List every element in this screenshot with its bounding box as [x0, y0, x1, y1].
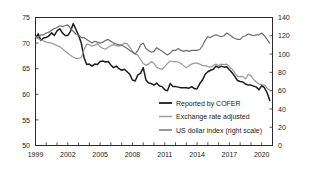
x-axis-tick: 2002: [60, 151, 76, 158]
y-axis-right-tick: 40: [278, 106, 286, 113]
x-axis-tick: 1999: [28, 151, 44, 158]
chart-container: 757065605550 140120100806040200 19992002…: [0, 0, 314, 170]
x-axis-tick: 2014: [189, 151, 205, 158]
y-axis-left-tick: 65: [22, 65, 30, 72]
y-axis-right-tick: 60: [278, 87, 286, 94]
y-axis-left-tick: 60: [22, 91, 30, 98]
x-axis-tick: 2005: [92, 151, 108, 158]
legend-label-2: US dollar index (right scale): [176, 127, 262, 135]
y-axis-left-tick: 75: [22, 14, 30, 21]
x-axis-tick: 2011: [157, 151, 172, 158]
y-axis-left-tick: 70: [22, 40, 30, 47]
y-axis-right-tick: 0: [278, 142, 282, 149]
x-axis-tick: 2017: [222, 151, 238, 158]
y-axis-right-tick: 20: [278, 124, 286, 131]
dual-axis-line-chart: 757065605550 140120100806040200 19992002…: [0, 0, 314, 170]
legend-label-0: Reported by COFER: [176, 100, 241, 108]
y-axis-left-tick: 50: [22, 142, 30, 149]
legend-label-1: Exchange rate adjusted: [176, 113, 250, 121]
y-axis-right-tick: 140: [278, 14, 290, 21]
y-axis-left-tick: 55: [22, 117, 30, 124]
x-axis-tick: 2008: [125, 151, 141, 158]
y-axis-right-tick: 120: [278, 32, 290, 39]
y-axis-right-tick: 80: [278, 69, 286, 76]
chart-background: [0, 0, 314, 170]
x-axis-tick: 2020: [254, 151, 270, 158]
y-axis-right-tick: 100: [278, 51, 290, 58]
